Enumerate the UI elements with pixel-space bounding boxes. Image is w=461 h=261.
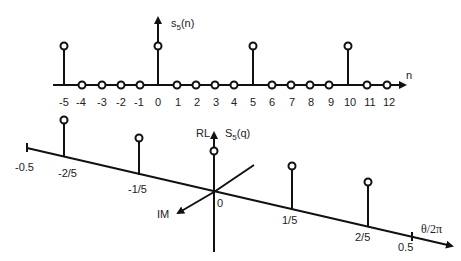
diagram-canvas: s5(n) n -5 -4 -3 -2 -1 0 1 2 3 4 5 6 7 8… bbox=[0, 0, 461, 261]
svg-text:8: 8 bbox=[308, 96, 314, 108]
top-x-label: n bbox=[406, 69, 412, 81]
origin-label: 0 bbox=[217, 197, 223, 209]
imaginary-axis bbox=[178, 192, 214, 213]
svg-text:5: 5 bbox=[250, 96, 256, 108]
svg-text:1/5: 1/5 bbox=[282, 214, 297, 226]
svg-text:6: 6 bbox=[269, 96, 275, 108]
svg-text:0.5: 0.5 bbox=[398, 241, 413, 253]
top-tick-labels: -5 -4 -3 -2 -1 0 1 2 3 4 5 6 7 8 9 10 11… bbox=[59, 96, 395, 108]
svg-text:-5: -5 bbox=[59, 96, 69, 108]
svg-text:-1/5: -1/5 bbox=[128, 183, 147, 195]
frequency-axis bbox=[27, 148, 452, 246]
svg-text:11: 11 bbox=[364, 96, 375, 108]
svg-text:-2/5: -2/5 bbox=[58, 167, 77, 179]
svg-text:-1: -1 bbox=[134, 96, 144, 108]
svg-text:4: 4 bbox=[231, 96, 237, 108]
imaginary-axis-upper bbox=[214, 165, 254, 192]
svg-text:1: 1 bbox=[175, 96, 181, 108]
bottom-y-label: S5(q) bbox=[225, 127, 250, 142]
frequency-axis-label: θ/2π bbox=[421, 222, 442, 236]
svg-text:2: 2 bbox=[194, 96, 200, 108]
svg-text:-3: -3 bbox=[97, 96, 107, 108]
top-plot: s5(n) n -5 -4 -3 -2 -1 0 1 2 3 4 5 6 7 8… bbox=[53, 17, 412, 108]
svg-text:3: 3 bbox=[213, 96, 219, 108]
real-axis-label: RL bbox=[196, 127, 210, 139]
imaginary-axis-label: IM bbox=[157, 208, 169, 220]
top-y-label: s5(n) bbox=[171, 17, 194, 32]
svg-text:-0.5: -0.5 bbox=[15, 161, 34, 173]
top-stems bbox=[61, 43, 352, 86]
svg-text:9: 9 bbox=[328, 96, 334, 108]
bottom-plot: RL S5(q) IM 0 θ/2π -0.5 -2/5 -1/5 1/5 2/… bbox=[15, 117, 452, 254]
svg-text:12: 12 bbox=[383, 96, 395, 108]
svg-text:2/5: 2/5 bbox=[355, 231, 370, 243]
svg-text:-4: -4 bbox=[76, 96, 86, 108]
bottom-stems bbox=[61, 117, 372, 227]
svg-text:-2: -2 bbox=[116, 96, 126, 108]
svg-text:10: 10 bbox=[344, 96, 356, 108]
svg-text:0: 0 bbox=[155, 96, 161, 108]
svg-text:7: 7 bbox=[289, 96, 295, 108]
